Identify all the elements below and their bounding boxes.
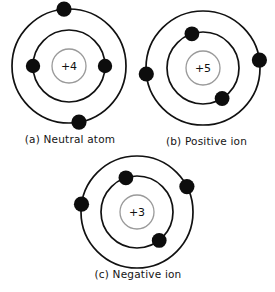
electron-dot	[56, 2, 71, 17]
caption-negative-ion: (c) Negative ion	[62, 268, 214, 280]
electron-dot	[215, 91, 230, 106]
electron-dot	[119, 170, 134, 185]
atom-diagram-neutral-atom: +4	[0, 0, 140, 134]
nucleus-charge-label: +5	[195, 62, 211, 75]
figure-canvas: +4 (a) Neutral atom +5 (b) Positive ion …	[0, 0, 275, 292]
atom-svg-positive-ion: +5	[140, 0, 275, 136]
electron-dot	[98, 59, 112, 73]
electron-dot	[152, 233, 167, 248]
nucleus-charge-label: +3	[129, 206, 145, 219]
atom-svg-neutral-atom: +4	[0, 0, 140, 134]
atom-svg-negative-ion: +3	[68, 144, 208, 274]
electron-dot	[179, 179, 194, 194]
electron-dot	[185, 26, 200, 41]
electron-dot	[74, 197, 89, 212]
electron-dot	[26, 59, 40, 73]
atom-diagram-positive-ion: +5	[140, 0, 275, 136]
electron-dot	[71, 115, 86, 130]
nucleus-charge-label: +4	[61, 60, 77, 73]
electron-dot	[139, 66, 154, 81]
electron-dot	[252, 53, 267, 68]
atom-diagram-negative-ion: +3	[68, 144, 208, 274]
